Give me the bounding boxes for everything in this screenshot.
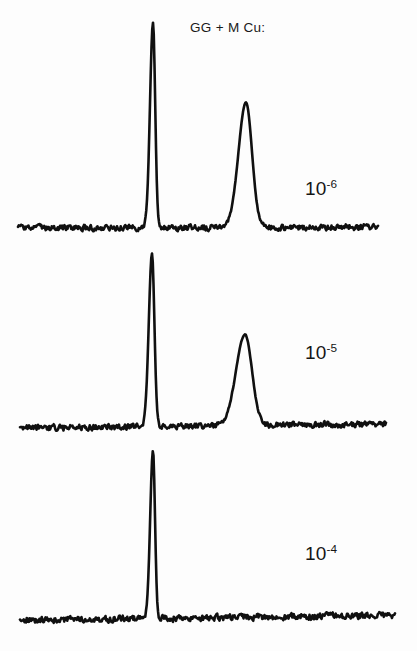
concentration-exponent: -4	[327, 542, 337, 555]
concentration-mantissa: 10	[305, 342, 327, 363]
spectrum-trace	[20, 451, 395, 623]
concentration-label-1e-4: 10-4	[305, 543, 337, 565]
concentration-mantissa: 10	[305, 543, 327, 564]
concentration-label-1e-5: 10-5	[305, 342, 337, 364]
spectra-figure: GG + M Cu: 10-6 10-5 10-4	[0, 0, 417, 651]
figure-title: GG + M Cu:	[190, 20, 265, 35]
concentration-label-1e-6: 10-6	[305, 178, 337, 200]
concentration-mantissa: 10	[305, 178, 327, 199]
trace-group	[18, 23, 395, 623]
spectra-plot-area	[0, 0, 417, 651]
concentration-exponent: -6	[327, 177, 337, 190]
concentration-exponent: -5	[327, 341, 337, 354]
